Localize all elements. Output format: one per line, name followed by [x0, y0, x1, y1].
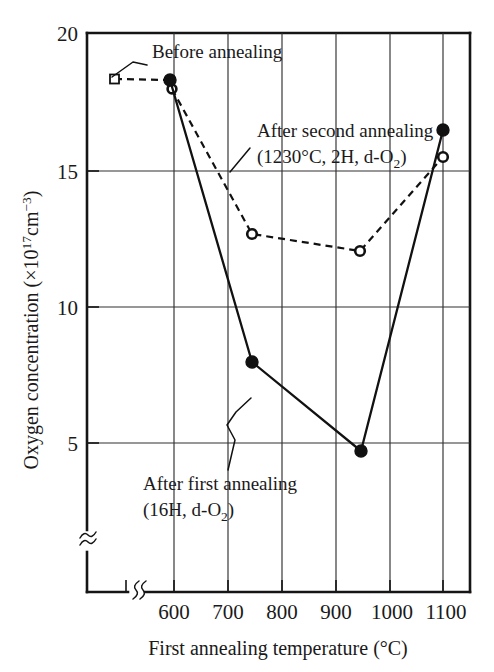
leader-after-first-annealing — [227, 398, 251, 470]
y-axis-title-main: Oxygen concentration (×10 — [20, 249, 43, 469]
xtick-label-1000: 1000 — [371, 600, 413, 624]
annotation-after-first-annealing-line1: After first annealing — [143, 473, 298, 494]
annotation-before-annealing: Before annealing — [152, 41, 283, 62]
annotation-after-second-annealing: After second annealing (1230°C, 2H, d-O2… — [257, 120, 434, 171]
annotation-after-first-annealing: After first annealing (16H, d-O2) — [143, 473, 298, 524]
marker-filled-circle-1100 — [437, 124, 449, 136]
x-tick-labels: 600 700 800 900 1000 1100 — [158, 600, 466, 624]
y-axis-title-close: ) — [20, 190, 43, 197]
ytick-label-20: 20 — [57, 22, 78, 46]
annotation-after-second-annealing-line1: After second annealing — [257, 120, 434, 141]
y-axis-title-unit: cm — [20, 211, 42, 236]
xtick-label-800: 800 — [266, 600, 298, 624]
y-tick-labels: 20 15 10 5 — [57, 22, 78, 456]
xtick-label-1100: 1100 — [425, 600, 466, 624]
annotation-after-second-line2-pre: (1230°C, 2H, d-O — [257, 146, 393, 168]
annotation-after-first-annealing-line2: (16H, d-O2) — [143, 499, 234, 524]
x-axis-break-left-squiggle — [133, 581, 139, 599]
marker-filled-circle-750 — [246, 356, 258, 368]
series-after-second-annealing — [168, 85, 448, 256]
ytick-label-5: 5 — [68, 432, 79, 456]
annotation-after-second-line2-sub: 2 — [393, 156, 400, 171]
marker-filled-circle-950 — [355, 445, 367, 457]
annotation-after-first-line2-sub: 2 — [221, 509, 228, 524]
series-before-annealing-line — [115, 79, 170, 80]
y-axis-title-exponent: 17 — [19, 236, 34, 250]
y-axis-title: Oxygen concentration (×1017cm−3) — [19, 190, 43, 469]
xtick-label-600: 600 — [158, 600, 190, 624]
leader-after-second-annealing — [230, 148, 250, 172]
ytick-label-15: 15 — [57, 160, 78, 184]
series-before-annealing — [110, 75, 170, 84]
axis-break-marks — [80, 532, 146, 599]
marker-open-circle-1100 — [438, 152, 448, 162]
y-axis-break-upper-squiggle — [80, 539, 96, 545]
oxygen-concentration-chart: 20 15 10 5 600 700 800 900 1000 1100 Fir… — [0, 0, 494, 672]
y-axis-title-group: Oxygen concentration (×1017cm−3) — [19, 190, 43, 469]
x-axis-break-right-squiggle — [140, 581, 146, 599]
x-axis-title: First annealing temperature (°C) — [148, 637, 408, 660]
y-axis-break-lower-squiggle — [80, 532, 96, 538]
x-axis-ticks — [126, 580, 443, 592]
horizontal-gridlines — [87, 171, 470, 443]
annotation-after-first-line2-post: ) — [228, 499, 234, 521]
annotation-after-first-line2-pre: (16H, d-O — [143, 499, 221, 521]
marker-open-circle-950 — [355, 246, 365, 256]
marker-open-circle-750 — [247, 229, 257, 239]
annotation-after-second-line2-post: ) — [400, 146, 406, 168]
annotation-after-second-annealing-line2: (1230°C, 2H, d-O2) — [257, 146, 406, 171]
ytick-label-10: 10 — [57, 296, 78, 320]
xtick-label-700: 700 — [212, 600, 244, 624]
xtick-label-900: 900 — [320, 600, 352, 624]
y-axis-ticks — [87, 33, 99, 443]
chart-svg: 20 15 10 5 600 700 800 900 1000 1100 Fir… — [0, 0, 494, 672]
y-axis-title-unit-exponent: −3 — [19, 197, 34, 212]
